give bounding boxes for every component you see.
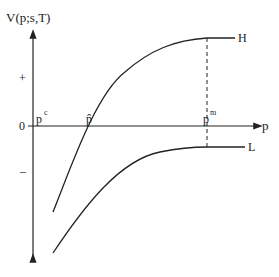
plus-label: +	[19, 71, 26, 85]
pm-label: p m	[203, 108, 217, 126]
svg-text:c: c	[44, 108, 48, 117]
svg-text:m: m	[210, 108, 217, 117]
curve-l-label: L	[248, 140, 255, 154]
p-hat-label: p̂	[86, 112, 92, 126]
pc-label: p c	[36, 108, 48, 126]
curve-h-label: H	[238, 31, 247, 45]
svg-text:p: p	[203, 112, 209, 126]
curve-l	[53, 147, 245, 253]
value-function-diagram: V(p;s,T) p 0 + – p c p̂ p m H L	[0, 0, 279, 277]
x-axis-label: p	[262, 118, 269, 133]
y-axis-label: V(p;s,T)	[6, 10, 50, 25]
minus-label: –	[19, 164, 27, 178]
svg-text:p: p	[36, 112, 42, 126]
zero-label: 0	[19, 119, 25, 133]
